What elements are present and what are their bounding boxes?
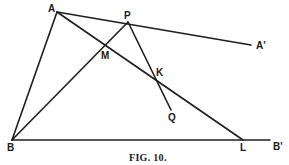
label-A-prime: A' bbox=[256, 40, 266, 51]
segment-BP bbox=[12, 22, 128, 140]
figure-caption: FIG. 10. bbox=[129, 152, 167, 163]
geometry-figure: A P A' M K Q B L B' FIG. 10. bbox=[0, 0, 289, 165]
label-Q: Q bbox=[168, 112, 176, 123]
label-L: L bbox=[240, 142, 246, 153]
segment-AA-prime bbox=[57, 12, 251, 45]
segment-AB bbox=[12, 12, 57, 140]
segments bbox=[12, 12, 270, 140]
label-M: M bbox=[101, 50, 109, 61]
label-B: B bbox=[7, 142, 14, 153]
label-P: P bbox=[124, 10, 131, 21]
point-labels: A P A' M K Q B L B' bbox=[7, 3, 283, 153]
label-K: K bbox=[156, 67, 164, 78]
label-A: A bbox=[48, 3, 55, 14]
label-B-prime: B' bbox=[273, 141, 283, 152]
segment-AL bbox=[57, 12, 243, 140]
